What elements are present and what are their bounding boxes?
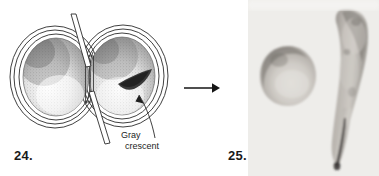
gray-crescent-label-line2: crescent (121, 141, 159, 152)
figure-number-25: 25. (228, 148, 247, 163)
arrow-right-icon (183, 80, 221, 96)
belly-piece-and-tadpole-photograph (248, 0, 379, 176)
figure-plate: 24. Gray crescent (0, 0, 379, 176)
figure-24-panel: 24. Gray crescent (0, 0, 190, 176)
figure-number-24: 24. (14, 148, 33, 163)
gray-crescent-label-line1: Gray (121, 130, 141, 140)
gray-crescent-label: Gray crescent (121, 130, 159, 151)
figure-25-panel: Belly-piece (248, 0, 379, 176)
